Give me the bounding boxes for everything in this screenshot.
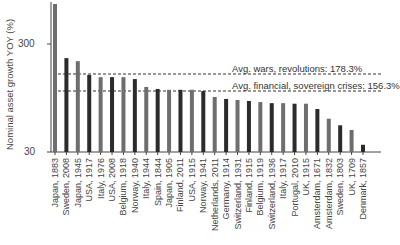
x-category-label: Denmark, 1857	[358, 158, 368, 220]
bar	[133, 79, 137, 152]
x-category-label: Spain, 1844	[153, 158, 163, 206]
bar	[190, 90, 194, 152]
x-category-label: Italy, 1976	[96, 158, 106, 199]
bar	[327, 119, 331, 152]
x-category-label: Japan, 1945	[73, 158, 83, 208]
x-category-label: Italy, 1917	[278, 158, 288, 199]
x-category-label: Netherlands, 2011	[210, 158, 220, 231]
bar	[87, 75, 91, 152]
x-category-label: Finland, 2011	[175, 158, 185, 212]
x-category-label: UK, 1709	[347, 158, 357, 196]
x-category-label: UK, 1915	[301, 158, 311, 196]
bar	[64, 58, 68, 152]
x-category-label: Norway, 1940	[130, 158, 140, 213]
bar	[213, 97, 217, 152]
x-category-label: Norway, 1941	[198, 158, 208, 213]
x-category-label: Belgium, 1918	[118, 158, 128, 216]
x-category-label: Amsterdam, 1671	[312, 158, 322, 229]
bar	[99, 77, 103, 152]
x-category-label: Sweden, 2008	[61, 158, 71, 216]
bar	[144, 87, 148, 152]
x-category-label: USA, 1915	[187, 158, 197, 202]
x-category-label: Japan, 1883	[50, 158, 60, 208]
x-category-label: USA, 2008	[107, 158, 117, 202]
bar	[247, 101, 251, 152]
bar	[338, 125, 342, 152]
bar	[201, 91, 205, 152]
x-category-label: Amsterdam, 1832	[324, 158, 334, 229]
x-category-label: Japan, 1905	[164, 158, 174, 208]
bar	[110, 77, 114, 152]
bar	[270, 103, 274, 152]
bar	[236, 100, 240, 152]
bar	[293, 104, 297, 152]
x-category-label: Belgium, 1919	[255, 158, 265, 216]
x-category-label: Switzerland, 1931	[233, 158, 243, 230]
bar	[76, 61, 80, 152]
bar	[304, 104, 308, 152]
x-category-label: Switzerland, 1936	[267, 158, 277, 230]
bar	[224, 99, 228, 152]
bar	[167, 90, 171, 152]
x-category-label: Sweden, 1803	[335, 158, 345, 216]
x-category-label: Finland, 1915	[244, 158, 254, 213]
bar	[178, 90, 182, 152]
x-category-label: Italy, 1944	[141, 158, 151, 199]
bar	[53, 4, 57, 152]
x-category-label: Portugal, 2010	[290, 158, 300, 217]
bar	[258, 102, 262, 152]
bar	[315, 109, 319, 152]
bar	[350, 130, 354, 152]
bar	[121, 77, 125, 152]
bar	[361, 145, 365, 152]
bar	[156, 89, 160, 152]
bar	[281, 103, 285, 152]
x-category-label: USA, 1917	[84, 158, 94, 202]
x-category-label: Germany, 1914	[221, 158, 231, 219]
